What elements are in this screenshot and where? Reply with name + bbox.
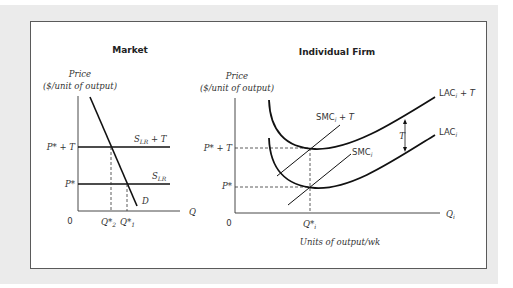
firm-y-label-line1: Price — [225, 71, 248, 81]
firm-panel: Individual Firm Price ($/unit of output)… — [200, 47, 476, 247]
demand-curve — [90, 97, 137, 206]
lac-plus-t-curve — [269, 97, 435, 149]
economics-diagram: Market Price ($/unit of output) Q 0 P* +… — [0, 0, 513, 288]
smc-plus-t-label: SMCi + T — [316, 112, 355, 123]
firm-x-caption: Units of output/wk — [300, 237, 380, 247]
lac-label: LACi — [439, 127, 458, 138]
lac-plus-t-label: LACi + T — [439, 88, 476, 99]
supply-lr-label: SLR — [152, 171, 167, 182]
market-x-label: Q — [189, 207, 196, 217]
q-star-2-label: Q*2 — [101, 217, 116, 228]
smc-curve — [288, 154, 351, 205]
market-y-label-line2: ($/unit of output) — [43, 81, 117, 91]
q-star-1-label: Q*1 — [120, 217, 135, 228]
tax-arrow-down-head-icon — [403, 147, 407, 152]
firm-title: Individual Firm — [299, 47, 375, 57]
firm-q-star-label: Q*i — [303, 219, 316, 230]
firm-price-p-star: P* — [221, 181, 233, 191]
smc-plus-t-curve — [277, 125, 340, 176]
firm-x-label: Qi — [446, 209, 455, 220]
market-title: Market — [112, 45, 148, 55]
market-origin-label: 0 — [67, 216, 72, 226]
market-y-label-line1: Price — [68, 69, 91, 79]
smc-label: SMCi — [352, 147, 373, 158]
supply-lr-plus-t-label: SLR + T — [134, 134, 168, 145]
market-panel: Market Price ($/unit of output) Q 0 P* +… — [43, 45, 196, 228]
firm-y-label-line2: ($/unit of output) — [200, 83, 274, 93]
demand-label: D — [141, 196, 149, 206]
market-price-p-star-plus-t: P* + T — [46, 142, 76, 152]
market-price-p-star: P* — [64, 179, 76, 189]
tax-arrow-up-head-icon — [403, 119, 407, 124]
firm-origin-label: 0 — [226, 218, 231, 228]
firm-price-p-star-plus-t: P* + T — [203, 143, 233, 153]
